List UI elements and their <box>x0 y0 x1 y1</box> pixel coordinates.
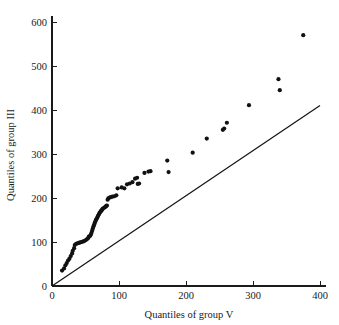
data-point <box>130 180 134 184</box>
data-points-group <box>60 33 305 273</box>
data-point <box>301 33 305 37</box>
x-tick-label-400: 400 <box>312 290 328 301</box>
x-tick-label-200: 200 <box>178 290 194 301</box>
qq-plot-figure: 0100200300400500600 0100200300400 Quanti… <box>0 0 339 325</box>
x-tick-label-0: 0 <box>49 290 54 301</box>
data-point <box>222 126 226 130</box>
data-point <box>135 176 139 180</box>
data-point <box>278 88 282 92</box>
data-point <box>116 186 120 190</box>
y-tick-label-600: 600 <box>31 17 47 28</box>
identity-reference-line <box>52 106 320 286</box>
data-point <box>122 186 126 190</box>
y-tick-label-100: 100 <box>31 237 47 248</box>
data-point <box>105 203 109 207</box>
x-tick-label-100: 100 <box>111 290 127 301</box>
data-point <box>276 77 280 81</box>
x-tick-label-300: 300 <box>245 290 261 301</box>
scatter-plot-canvas: 0100200300400500600 0100200300400 Quanti… <box>0 0 339 325</box>
y-axis-title: Quantiles of group III <box>5 109 16 201</box>
data-point <box>165 159 169 163</box>
y-axis-ticks <box>52 22 57 286</box>
data-point <box>205 137 209 141</box>
data-point <box>191 151 195 155</box>
y-axis-tick-labels: 0100200300400500600 <box>31 17 47 292</box>
data-point <box>247 103 251 107</box>
y-tick-label-200: 200 <box>31 193 47 204</box>
reference-line-group <box>52 106 320 286</box>
y-tick-label-400: 400 <box>31 105 47 116</box>
x-axis-tick-labels: 0100200300400 <box>49 290 328 301</box>
x-axis-ticks <box>52 281 320 286</box>
data-point <box>137 181 141 185</box>
data-point <box>225 121 229 125</box>
x-axis-title: Quantiles of group V <box>145 309 234 320</box>
data-point <box>142 171 146 175</box>
y-tick-label-500: 500 <box>31 61 47 72</box>
y-tick-label-0: 0 <box>42 281 47 292</box>
data-point <box>166 170 170 174</box>
data-point <box>114 193 118 197</box>
data-point <box>148 169 152 173</box>
y-tick-label-300: 300 <box>31 149 47 160</box>
axes-group <box>52 16 326 286</box>
